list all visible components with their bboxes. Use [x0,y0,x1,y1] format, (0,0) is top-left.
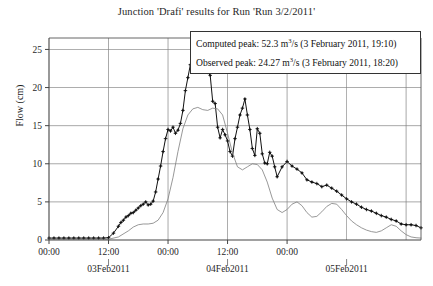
svg-text:00:00: 00:00 [157,247,179,257]
svg-text:03Feb2011: 03Feb2011 [87,264,130,274]
observed-peak-line: Observed peak: 24.27 m3/s (3 February 20… [196,53,416,72]
peak-annotation-legend: Computed peak: 52.3 m3/s (3 February 201… [190,31,421,74]
svg-text:5: 5 [37,197,42,207]
svg-text:12:00: 12:00 [98,247,120,257]
svg-text:00:00: 00:00 [276,247,298,257]
svg-text:04Feb2011: 04Feb2011 [206,264,249,274]
svg-text:05Feb2011: 05Feb2011 [325,264,368,274]
computed-peak-line: Computed peak: 52.3 m3/s (3 February 201… [196,34,416,53]
observed-peak-suffix: /s (3 February 2011, 18:20) [293,57,398,68]
svg-text:00:00: 00:00 [38,247,60,257]
computed-peak-suffix: /s (3 February 2011, 19:10) [292,38,397,49]
svg-text:15: 15 [33,121,43,131]
computed-peak-prefix: Computed peak: 52.3 m [196,38,288,49]
observed-peak-prefix: Observed peak: 24.27 m [196,57,290,68]
svg-text:25: 25 [33,45,43,55]
data-series [47,53,423,240]
svg-text:20: 20 [33,83,43,93]
chart-container: Junction 'Drafi' results for Run 'Run 3/… [0,0,433,286]
svg-text:12:00: 12:00 [217,247,239,257]
svg-text:10: 10 [33,159,43,169]
svg-text:0: 0 [37,235,42,245]
